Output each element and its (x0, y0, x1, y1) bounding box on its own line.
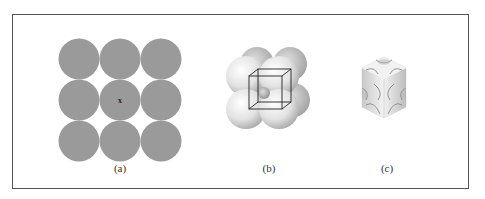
panel-c-unit-cell (362, 57, 406, 118)
atom-circle (59, 39, 100, 80)
atom-circle (59, 80, 100, 121)
panel-a-atom-grid: x (59, 39, 182, 162)
panel-c-label: (c) (367, 162, 407, 174)
panel-b-label: (b) (249, 162, 289, 174)
atom-circle (141, 80, 182, 121)
atom-circle (100, 121, 141, 162)
panel-a-label: (a) (100, 162, 140, 174)
atom-circle (59, 121, 100, 162)
figure-canvas: x (0, 0, 485, 199)
atom-circle (100, 39, 141, 80)
panel-b-space-filling-model (226, 47, 310, 129)
atom-circle (141, 39, 182, 80)
atom-circle (141, 121, 182, 162)
center-x-marker: x (118, 96, 122, 105)
